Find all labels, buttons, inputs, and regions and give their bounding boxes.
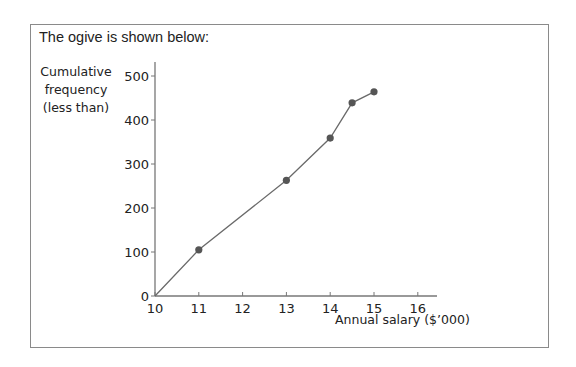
y-tick-label: 400 xyxy=(124,113,149,128)
x-tick-label: 11 xyxy=(191,301,208,316)
x-tick-label: 13 xyxy=(278,301,295,316)
data-point-marker xyxy=(283,177,290,184)
y-tick-label: 300 xyxy=(124,157,149,172)
x-tick-label: 15 xyxy=(366,301,383,316)
data-point-marker xyxy=(349,99,356,106)
ogive-chart: 010020030040050010111213141516 xyxy=(0,0,576,367)
data-point-marker xyxy=(327,134,334,141)
y-tick-label: 100 xyxy=(124,245,149,260)
x-tick-label: 16 xyxy=(410,301,427,316)
x-tick-label: 12 xyxy=(234,301,251,316)
data-point-marker xyxy=(195,246,202,253)
y-tick-label: 200 xyxy=(124,201,149,216)
x-tick-label: 10 xyxy=(147,301,164,316)
x-tick-label: 14 xyxy=(322,301,339,316)
data-point-marker xyxy=(370,88,377,95)
y-tick-label: 500 xyxy=(124,69,149,84)
ogive-line xyxy=(155,92,374,296)
